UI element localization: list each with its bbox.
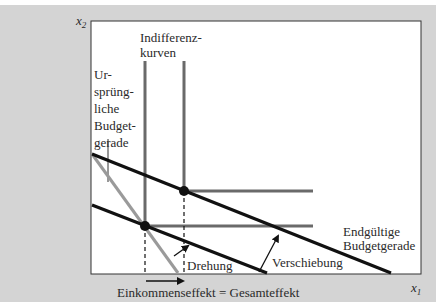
original-budget-label-3: liche	[94, 101, 119, 116]
original-budget-label-4: Budget-	[94, 118, 136, 133]
y-axis-label: x2	[75, 13, 87, 30]
shift-label: Verschiebung	[272, 255, 343, 270]
original-budget-label-5: gerade	[94, 135, 129, 150]
final-budget-label-2: Budgetgerade	[343, 238, 415, 253]
final-budget-label-1: Endgültige	[343, 224, 400, 239]
final-optimum-point	[179, 186, 189, 196]
rotation-label: Drehung	[187, 258, 233, 273]
x-axis-label: x1	[410, 280, 421, 297]
indifference-label-line2: kurven	[140, 45, 177, 60]
original-budget-label-1: Ur-	[94, 67, 112, 82]
original-optimum-point	[140, 221, 150, 231]
indifference-label-line1: Indifferenz-	[140, 30, 202, 45]
original-budget-label-2: sprüng-	[94, 84, 134, 99]
income-effect-caption: Einkommenseffekt = Gesamteffekt	[117, 285, 300, 300]
perfect-complements-diagram: x2 x1 Indifferenz- kurven Ur- sprüng- li…	[0, 0, 436, 308]
